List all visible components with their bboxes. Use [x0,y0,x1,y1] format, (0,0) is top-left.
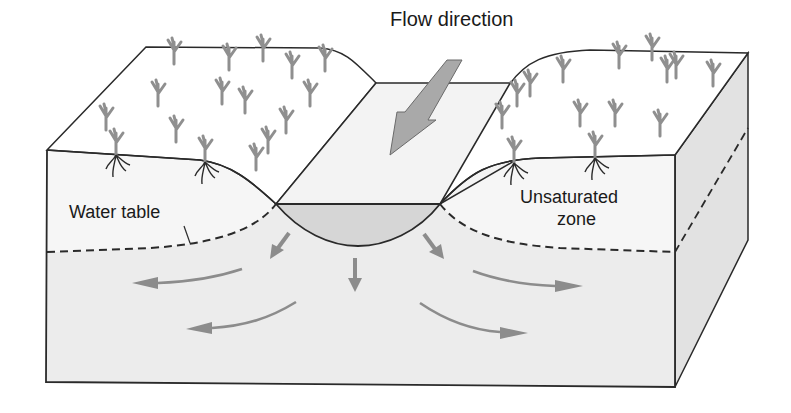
water-table-label: Water table [69,203,160,223]
unsaturated-zone-label-line1: Unsaturated [520,188,618,208]
unsaturated-zone-label-line2: zone [557,210,596,230]
flow-direction-label: Flow direction [390,8,513,30]
